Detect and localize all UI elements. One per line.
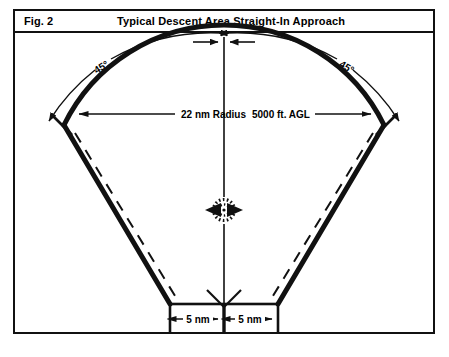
radius-dimension-left: 22 nm Radius bbox=[79, 109, 246, 120]
altitude-dimension-right: 5000 ft. AGL bbox=[252, 109, 371, 120]
altitude-label: 5000 ft. AGL bbox=[252, 109, 310, 120]
navaid-center-dot-icon bbox=[222, 208, 225, 211]
sector-edge-right bbox=[278, 125, 384, 304]
corridor-width-label-left: 5 nm bbox=[186, 314, 209, 325]
navaid-vor-icon bbox=[205, 200, 243, 221]
figure-frame: Fig. 2 Typical Descent Area Straight-In … bbox=[13, 9, 435, 334]
dashed-line-right bbox=[268, 133, 373, 304]
dashed-line-left bbox=[75, 133, 180, 304]
figure-container: Fig. 2 Typical Descent Area Straight-In … bbox=[0, 0, 449, 357]
corridor-width-label-right: 5 nm bbox=[238, 314, 261, 325]
sector-edge-left bbox=[64, 125, 170, 304]
descent-area-diagram: 45° 45° bbox=[15, 11, 433, 332]
corridor-width-boxes: 5 nm 5 nm bbox=[170, 304, 278, 332]
radius-label: 22 nm Radius bbox=[181, 109, 246, 120]
